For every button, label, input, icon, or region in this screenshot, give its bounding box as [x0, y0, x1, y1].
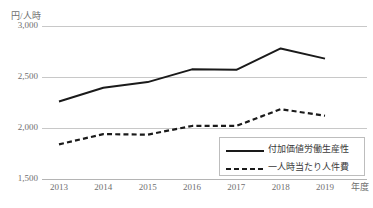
- legend-item-value-added-labor-productivity: 付加価値労働生産性: [220, 140, 366, 157]
- y-axis-tick-labels: 3,0002,5002,0001,500: [0, 26, 38, 179]
- legend-label: 付加価値労働生産性: [268, 142, 349, 155]
- legend-item-labor-cost-per-hour: 一人時当たり人件費: [220, 158, 366, 175]
- legend-swatch-solid: [225, 143, 265, 155]
- x-axis-unit-label: 年度: [351, 182, 369, 192]
- y-tick-label: 2,500: [4, 72, 38, 81]
- x-tick-label: 2013: [50, 182, 68, 192]
- gridline-1500: [42, 179, 367, 180]
- y-tick-label: 2,000: [4, 123, 38, 132]
- y-tick-label: 3,000: [4, 21, 38, 30]
- x-tick-label: 2014: [94, 182, 112, 192]
- chart-legend: 付加価値労働生産性 一人時当たり人件費: [219, 137, 365, 176]
- series-line: [59, 48, 325, 101]
- line-chart: 円/人時 3,0002,5002,0001,500 年度 20132014201…: [0, 0, 373, 208]
- y-tick-label: 1,500: [4, 174, 38, 183]
- x-tick-label: 2016: [183, 182, 201, 192]
- x-tick-label: 2017: [227, 182, 245, 192]
- x-tick-label: 2019: [316, 182, 334, 192]
- legend-swatch-dashed: [225, 161, 265, 173]
- legend-label: 一人時当たり人件費: [268, 160, 349, 173]
- x-tick-label: 2018: [272, 182, 290, 192]
- x-axis-tick-labels: 年度 2013201420152016201720182019: [42, 182, 367, 196]
- x-tick-label: 2015: [139, 182, 157, 192]
